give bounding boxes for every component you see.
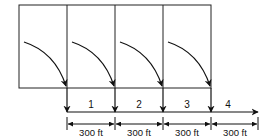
curved-arrow-icon: [24, 42, 66, 86]
segment-diagram: 1 2 3 4 300 ft 300 ft 300 ft 300 ft: [0, 0, 273, 140]
distance-label: 300 ft: [127, 127, 151, 138]
segment-number: 3: [184, 99, 190, 110]
curved-arrow-icon: [168, 42, 210, 86]
distance-label: 300 ft: [79, 127, 103, 138]
distance-label: 300 ft: [175, 127, 199, 138]
distance-label: 300 ft: [223, 127, 247, 138]
segment-number: 4: [225, 99, 231, 110]
curved-arrow-icon: [120, 42, 162, 86]
segment-number: 1: [88, 99, 94, 110]
segment-number: 2: [136, 99, 142, 110]
curved-arrow-icon: [72, 42, 114, 86]
